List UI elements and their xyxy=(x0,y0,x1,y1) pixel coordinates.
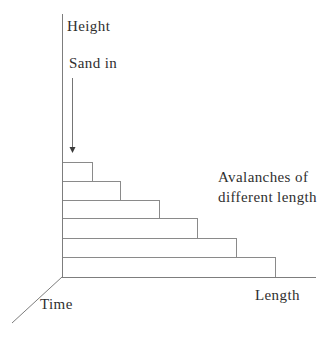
avalanche-step xyxy=(63,182,121,201)
time-axis-label: Time xyxy=(40,296,73,313)
sandpile-avalanche-diagram: Height Sand in Avalanches of different l… xyxy=(0,0,332,339)
height-axis-label: Height xyxy=(67,18,110,35)
avalanche-step xyxy=(63,219,198,239)
avalanche-step xyxy=(63,258,276,278)
avalanche-step xyxy=(63,163,93,182)
avalanche-step xyxy=(63,201,160,219)
sand-in-label: Sand in xyxy=(69,55,117,72)
avalanches-note-line2: different length xyxy=(218,189,317,206)
sand-arrowhead xyxy=(70,147,76,153)
avalanches-note-line1: Avalanches of xyxy=(218,169,308,186)
length-axis-label: Length xyxy=(255,287,300,304)
avalanche-step xyxy=(63,239,237,258)
